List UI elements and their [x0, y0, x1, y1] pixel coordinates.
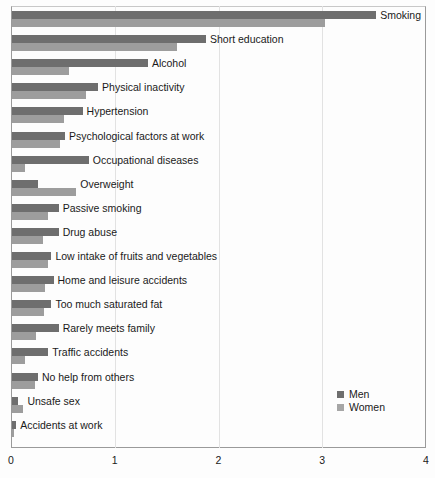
- bar-men: [12, 421, 16, 429]
- bar-men: [12, 107, 83, 115]
- chart-legend: Men Women: [337, 389, 385, 415]
- legend-item-men: Men: [337, 389, 385, 400]
- bar-men: [12, 373, 38, 381]
- bar-group: Hypertension: [12, 106, 427, 130]
- bar-men: [12, 348, 48, 356]
- bar-group: Home and leisure accidents: [12, 275, 427, 299]
- bar-group: Too much saturated fat: [12, 299, 427, 323]
- bar-group: Low intake of fruits and vegetables: [12, 251, 427, 275]
- category-label: Low intake of fruits and vegetables: [55, 250, 217, 263]
- bar-group: Smoking: [12, 10, 427, 34]
- category-label: Rarely meets family: [63, 322, 155, 335]
- bar-women: [12, 115, 64, 123]
- bar-women: [12, 308, 44, 316]
- bar-women: [12, 260, 48, 268]
- bar-group: Occupational diseases: [12, 155, 427, 179]
- legend-swatch-men-icon: [337, 391, 344, 398]
- bar-women: [12, 284, 45, 292]
- bar-men: [12, 180, 38, 188]
- bar-women: [12, 429, 14, 437]
- bar-group: Short education: [12, 34, 427, 58]
- bar-group: Traffic accidents: [12, 347, 427, 371]
- legend-swatch-women-icon: [337, 404, 344, 411]
- bar-men: [12, 228, 59, 236]
- bar-men: [12, 204, 59, 212]
- category-label: Too much saturated fat: [55, 298, 162, 311]
- bar-group: Rarely meets family: [12, 323, 427, 347]
- x-tick-label: 0: [8, 454, 14, 466]
- bar-group: Accidents at work: [12, 420, 427, 444]
- x-tick-label: 4: [423, 454, 429, 466]
- bar-men: [12, 132, 65, 140]
- bar-women: [12, 405, 23, 413]
- bar-group: Drug abuse: [12, 227, 427, 251]
- bar-group: Overweight: [12, 179, 427, 203]
- category-label: Unsafe sex: [27, 395, 80, 408]
- bar-women: [12, 236, 43, 244]
- category-label: Drug abuse: [63, 226, 117, 239]
- bar-men: [12, 83, 98, 91]
- bar-men: [12, 252, 51, 260]
- bar-men: [12, 35, 206, 43]
- x-tick-label: 1: [112, 454, 118, 466]
- bar-men: [12, 59, 148, 67]
- legend-item-women: Women: [337, 402, 385, 413]
- category-label: Short education: [210, 33, 284, 46]
- category-label: Occupational diseases: [93, 154, 199, 167]
- category-label: No help from others: [42, 371, 134, 384]
- bar-men: [12, 397, 18, 405]
- bar-women: [12, 19, 325, 27]
- bar-groups: SmokingShort educationAlcoholPhysical in…: [12, 6, 426, 448]
- legend-label-men: Men: [349, 389, 369, 400]
- bar-women: [12, 140, 60, 148]
- category-label: Smoking: [380, 9, 421, 22]
- bar-men: [12, 276, 54, 284]
- category-label: Psychological factors at work: [69, 130, 204, 143]
- bar-women: [12, 43, 177, 51]
- category-label: Home and leisure accidents: [58, 274, 188, 287]
- bar-women: [12, 332, 36, 340]
- bar-men: [12, 11, 376, 19]
- category-label: Alcohol: [152, 57, 186, 70]
- bar-women: [12, 356, 25, 364]
- category-label: Accidents at work: [20, 419, 102, 432]
- x-tick-label: 3: [319, 454, 325, 466]
- bar-group: Alcohol: [12, 58, 427, 82]
- category-label: Traffic accidents: [52, 346, 128, 359]
- bar-women: [12, 188, 76, 196]
- bar-men: [12, 156, 89, 164]
- legend-label-women: Women: [349, 402, 385, 413]
- bar-men: [12, 324, 59, 332]
- bar-women: [12, 164, 25, 172]
- category-label: Passive smoking: [63, 202, 142, 215]
- chart-root: SmokingShort educationAlcoholPhysical in…: [0, 0, 435, 478]
- bar-women: [12, 212, 48, 220]
- bar-men: [12, 300, 51, 308]
- category-label: Overweight: [80, 178, 133, 191]
- bar-women: [12, 91, 86, 99]
- x-tick-label: 2: [216, 454, 222, 466]
- category-label: Physical inactivity: [102, 81, 184, 94]
- bar-women: [12, 381, 35, 389]
- bar-group: Physical inactivity: [12, 82, 427, 106]
- bar-women: [12, 67, 69, 75]
- bar-group: Psychological factors at work: [12, 131, 427, 155]
- bar-group: Passive smoking: [12, 203, 427, 227]
- category-label: Hypertension: [87, 105, 149, 118]
